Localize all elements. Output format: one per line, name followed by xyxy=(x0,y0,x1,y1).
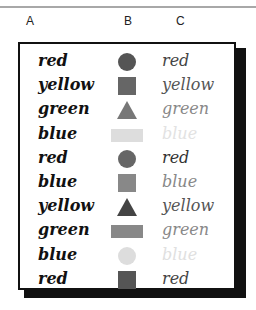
word-column-a: blue xyxy=(38,245,77,264)
column-header-a: A xyxy=(26,14,34,28)
rectangle-shape-icon xyxy=(111,225,143,238)
circle-shape-icon xyxy=(118,53,136,71)
word-column-a: yellow xyxy=(38,196,94,215)
word-column-a: green xyxy=(38,99,90,118)
top-divider xyxy=(0,6,256,8)
square-shape-icon xyxy=(118,271,136,289)
list-item: yellowyellow xyxy=(20,195,234,220)
column-header-b: B xyxy=(124,14,132,28)
circle-shape-icon xyxy=(118,247,136,265)
word-column-c: blue xyxy=(162,172,197,191)
square-shape-icon xyxy=(118,77,136,95)
list-item: greengreen xyxy=(20,98,234,123)
list-item: redred xyxy=(20,268,234,293)
word-column-c: yellow xyxy=(162,196,214,215)
list-item: blueblue xyxy=(20,244,234,269)
word-column-c: blue xyxy=(162,124,197,143)
triangle-shape-icon xyxy=(117,198,137,216)
word-column-a: red xyxy=(38,269,68,288)
stroop-card: redredyellowyellowgreengreenblueblueredr… xyxy=(18,42,236,290)
list-item: redred xyxy=(20,50,234,75)
word-column-c: yellow xyxy=(162,75,214,94)
word-column-c: green xyxy=(162,220,209,239)
word-column-c: red xyxy=(162,148,189,167)
word-column-a: red xyxy=(38,51,68,70)
column-header-c: C xyxy=(176,14,185,28)
circle-shape-icon xyxy=(118,150,136,168)
word-column-c: red xyxy=(162,51,189,70)
word-column-c: blue xyxy=(162,245,197,264)
rectangle-shape-icon xyxy=(111,129,143,142)
square-shape-icon xyxy=(118,174,136,192)
word-column-a: red xyxy=(38,148,68,167)
word-column-a: green xyxy=(38,220,90,239)
list-item: greengreen xyxy=(20,219,234,244)
word-column-a: yellow xyxy=(38,75,94,94)
triangle-shape-icon xyxy=(117,101,137,119)
word-column-c: green xyxy=(162,99,209,118)
word-column-c: red xyxy=(162,269,189,288)
list-item: yellowyellow xyxy=(20,74,234,99)
word-column-a: blue xyxy=(38,124,77,143)
list-item: blueblue xyxy=(20,123,234,148)
list-item: redred xyxy=(20,147,234,172)
list-item: blueblue xyxy=(20,171,234,196)
word-column-a: blue xyxy=(38,172,77,191)
